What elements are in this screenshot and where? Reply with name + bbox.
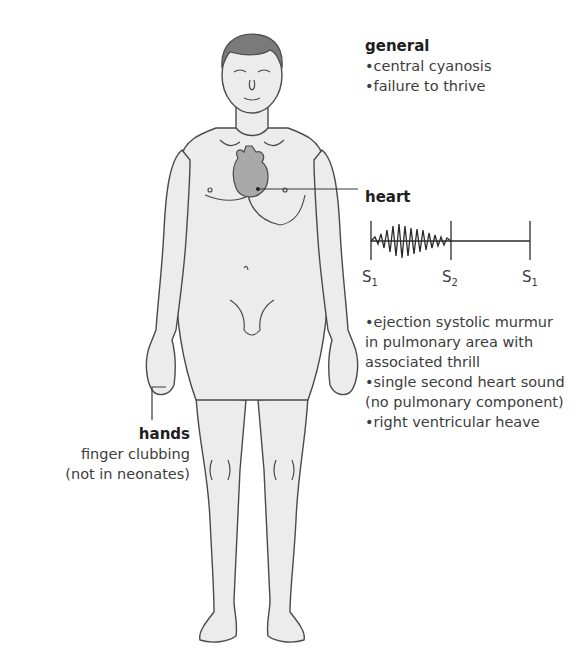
heart-findings: •ejection systolic murmur in pulmonary a… [365, 312, 570, 432]
left-leg [196, 395, 246, 642]
heart-finding: •right ventricular heave [365, 412, 570, 432]
heart-finding: •single second heart sound (no pulmonary… [365, 372, 570, 412]
general-findings: general •central cyanosis •failure to th… [365, 36, 565, 96]
heart-title: heart [365, 188, 411, 206]
hands-line: (not in neonates) [30, 464, 190, 484]
general-title: general [365, 36, 565, 56]
general-item: •failure to thrive [365, 76, 565, 96]
s1-marker-label: S1 [522, 268, 538, 288]
heart-label: heart [365, 187, 411, 207]
hands-title: hands [30, 424, 190, 444]
phonocardiogram [371, 221, 530, 260]
heart-finding: •ejection systolic murmur in pulmonary a… [365, 312, 570, 372]
hands-findings: hands finger clubbing (not in neonates) [30, 424, 190, 484]
right-leg [258, 395, 308, 642]
s2-marker-label: S2 [442, 268, 458, 288]
hands-line: finger clubbing [30, 444, 190, 464]
s1-marker-label: S1 [362, 268, 378, 288]
general-item: •central cyanosis [365, 56, 565, 76]
